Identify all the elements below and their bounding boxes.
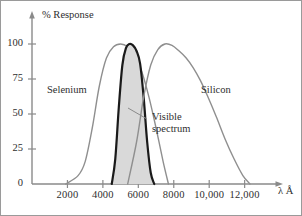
y-tick-label: 50	[1, 107, 23, 118]
y-tick-label: 0	[1, 177, 23, 188]
visible-spectrum-line-2: spectrum	[152, 123, 191, 135]
spectral-response-chart	[1, 1, 302, 216]
y-axis-arrowhead	[29, 11, 35, 19]
figure-container: % Response λ Å Selenium Silicon Visible …	[0, 0, 302, 216]
x-tick-label: 2000	[57, 189, 79, 200]
y-tick-label: 25	[1, 142, 23, 153]
silicon-curve-label: Silicon	[201, 84, 231, 95]
y-axis-title: % Response	[42, 9, 94, 20]
x-tick-label: 4000	[92, 189, 114, 200]
visible-spectrum-line-1: Visible	[152, 111, 191, 123]
axes-group	[28, 11, 283, 188]
y-tick-label: 100	[1, 37, 23, 48]
selenium-curve-label: Selenium	[47, 84, 87, 95]
y-tick-label: 75	[1, 72, 23, 83]
x-tick-label: 6000	[127, 189, 149, 200]
x-tick-label: 8000	[163, 189, 185, 200]
x-axis-title: λ Å	[278, 185, 293, 196]
x-tick-label: 10,000	[194, 189, 224, 200]
x-tick-label: 12,000	[230, 189, 260, 200]
visible-spectrum-annotation: Visible spectrum	[152, 111, 191, 135]
